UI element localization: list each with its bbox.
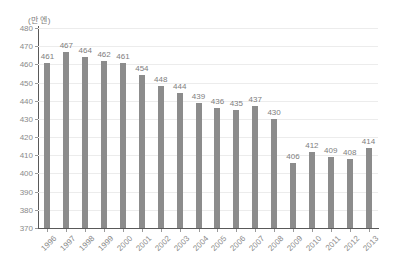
x-axis-tick-mark — [274, 229, 275, 232]
x-axis-tick-label: 1998 — [78, 234, 97, 253]
bar-chart: (만 엔) 3703803904004104204304404504604704… — [0, 0, 395, 270]
y-axis-tick-label: 400 — [20, 169, 33, 178]
bar-value-label: 464 — [79, 46, 92, 55]
x-axis-tick-mark — [161, 229, 162, 232]
bar-slot: 462 — [95, 28, 114, 228]
bar[interactable] — [347, 159, 353, 228]
bar-value-label: 467 — [60, 41, 73, 50]
bar[interactable] — [63, 52, 69, 228]
bar[interactable] — [366, 148, 372, 228]
bar-slot: 436 — [208, 28, 227, 228]
x-axis-tick-mark — [85, 229, 86, 232]
x-axis-tick-label: 2004 — [191, 234, 210, 253]
bar[interactable] — [328, 157, 334, 228]
x-axis-tick-label: 2009 — [285, 234, 304, 253]
bar[interactable] — [214, 108, 220, 228]
bar-value-label: 412 — [305, 141, 318, 150]
bar[interactable] — [101, 61, 107, 228]
bar-slot: 454 — [132, 28, 151, 228]
y-axis-tick-label: 390 — [20, 187, 33, 196]
x-axis-tick-label: 2008 — [267, 234, 286, 253]
bar-series: 4614674644624614544484444394364354374304… — [38, 28, 378, 228]
bar-value-label: 439 — [192, 92, 205, 101]
x-axis-tick-label: 2013 — [361, 234, 380, 253]
bar[interactable] — [82, 57, 88, 228]
y-axis-tick-label: 380 — [20, 205, 33, 214]
bar[interactable] — [177, 93, 183, 228]
y-axis-tick-mark — [35, 228, 38, 229]
x-axis-tick-mark — [199, 229, 200, 232]
x-axis-line — [38, 228, 379, 229]
x-axis-tick-label: 2000 — [115, 234, 134, 253]
y-axis-tick-label: 450 — [20, 78, 33, 87]
y-axis-tick-label: 420 — [20, 133, 33, 142]
bar[interactable] — [196, 103, 202, 228]
bar[interactable] — [158, 86, 164, 228]
x-axis-tick-mark — [350, 229, 351, 232]
bar-value-label: 461 — [116, 52, 129, 61]
x-axis-tick-label: 2012 — [342, 234, 361, 253]
x-axis-tick-label: 2007 — [248, 234, 267, 253]
x-axis-tick-label: 1997 — [59, 234, 78, 253]
bar-slot: 408 — [340, 28, 359, 228]
bar-slot: 461 — [38, 28, 57, 228]
bar-value-label: 437 — [249, 95, 262, 104]
x-axis-tick-mark — [123, 229, 124, 232]
y-axis-tick-label: 460 — [20, 60, 33, 69]
x-axis-tick-label: 2003 — [172, 234, 191, 253]
bar-slot: 467 — [57, 28, 76, 228]
bar-value-label: 461 — [41, 52, 54, 61]
x-axis-tick-label: 1999 — [97, 234, 116, 253]
bar-slot: 430 — [265, 28, 284, 228]
bar[interactable] — [290, 163, 296, 228]
bar-slot: 412 — [302, 28, 321, 228]
x-axis-tick-mark — [217, 229, 218, 232]
bar[interactable] — [139, 75, 145, 228]
y-axis-tick-label: 410 — [20, 151, 33, 160]
bar-value-label: 414 — [362, 137, 375, 146]
bar-slot: 435 — [227, 28, 246, 228]
x-axis-tick-mark — [255, 229, 256, 232]
x-axis-tick-label: 2005 — [210, 234, 229, 253]
x-axis-tick-label: 2001 — [134, 234, 153, 253]
bar[interactable] — [44, 63, 50, 228]
x-axis-tick-mark — [331, 229, 332, 232]
bar-slot: 414 — [359, 28, 378, 228]
x-axis-tick-mark — [180, 229, 181, 232]
bar-value-label: 454 — [135, 64, 148, 73]
bar-value-label: 408 — [343, 148, 356, 157]
x-axis-tick-label: 2002 — [153, 234, 172, 253]
bar-slot: 444 — [170, 28, 189, 228]
bar[interactable] — [271, 119, 277, 228]
y-axis-tick-label: 440 — [20, 96, 33, 105]
bar[interactable] — [252, 106, 258, 228]
bar-value-label: 436 — [211, 97, 224, 106]
bar-value-label: 448 — [154, 75, 167, 84]
bar-slot: 406 — [284, 28, 303, 228]
x-axis-tick-mark — [104, 229, 105, 232]
x-axis-tick-mark — [236, 229, 237, 232]
x-axis-tick-mark — [369, 229, 370, 232]
x-axis-tick-label: 2006 — [229, 234, 248, 253]
x-axis-tick-label: 2011 — [324, 234, 343, 253]
x-axis-tick-mark — [142, 229, 143, 232]
plot-area: 370380390400410420430440450460470480 461… — [38, 28, 378, 228]
bar-slot: 439 — [189, 28, 208, 228]
bar-slot: 437 — [246, 28, 265, 228]
bar-value-label: 462 — [97, 50, 110, 59]
bar-slot: 409 — [321, 28, 340, 228]
y-axis-tick-label: 480 — [20, 24, 33, 33]
bar[interactable] — [233, 110, 239, 228]
bar-value-label: 406 — [286, 152, 299, 161]
y-axis-tick-label: 430 — [20, 114, 33, 123]
x-axis-tick-mark — [312, 229, 313, 232]
x-axis-tick-label: 2010 — [304, 234, 323, 253]
bar[interactable] — [120, 63, 126, 228]
bar-value-label: 444 — [173, 82, 186, 91]
bar-slot: 461 — [114, 28, 133, 228]
bar-value-label: 409 — [324, 146, 337, 155]
bar-slot: 448 — [151, 28, 170, 228]
bar[interactable] — [309, 152, 315, 228]
x-axis-tick-mark — [47, 229, 48, 232]
y-axis-tick-label: 370 — [20, 224, 33, 233]
